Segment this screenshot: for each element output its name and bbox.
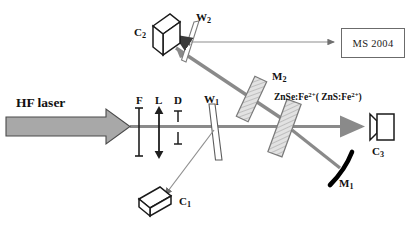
w1-to-c1-ray [165, 130, 214, 195]
filter-f [135, 108, 143, 156]
spectrometer-ms2004[interactable]: MS 2004 [341, 28, 405, 58]
detector-c3-label-sub: 3 [380, 150, 384, 159]
crystal-to-m1-beam [292, 130, 340, 168]
detector-c3-label-base: C [372, 145, 380, 157]
spectrometer-label: MS 2004 [353, 38, 394, 49]
hf-laser-block-arrow-shape [6, 109, 130, 144]
wedge-w2-label-base: W [196, 11, 207, 23]
mirror-m2-label-sub: 2 [282, 75, 286, 84]
wedge-w1-label: W1 [204, 94, 219, 107]
diagonal-beam-line [176, 48, 290, 124]
crystal-znse-label: ZnSe:Fe2+( ZnS:Fe2+) [274, 92, 362, 102]
detector-c1 [139, 187, 171, 216]
crystal-main-charge: 2+ [308, 91, 315, 98]
mirror-m1-label-base: M [339, 177, 349, 189]
detector-c2-label: C2 [134, 27, 146, 40]
lens-l [155, 106, 164, 159]
mirror-m2-label: M2 [272, 71, 286, 84]
wedge-w1-label-sub: 1 [215, 98, 219, 107]
mirror-m2-shape [236, 76, 266, 121]
crystal-main-text: ZnSe:Fe [274, 92, 308, 102]
detector-c1-label: C1 [179, 196, 191, 209]
detector-c2-label-base: C [134, 26, 142, 38]
diaphragm-d-label: D [174, 95, 182, 106]
mirror-m2 [236, 76, 266, 121]
wedge-w2-label: W2 [196, 12, 211, 25]
detector-c1-label-base: C [179, 195, 187, 207]
hf-laser-label: HF laser [16, 96, 65, 110]
wedge-w1 [209, 104, 222, 160]
hf-laser-arrow [6, 109, 130, 144]
wedge-w1-label-base: W [204, 93, 215, 105]
detector-c2-label-sub: 2 [142, 31, 146, 40]
detector-c3 [370, 114, 394, 140]
crystal-alt-charge: 2+ [351, 91, 358, 98]
crystal-alt-close: ) [359, 92, 362, 102]
optical-setup-diagram: HF laser F L D W1 W2 C2 C1 M2 M1 C3 ZnSe… [0, 0, 409, 233]
mirror-m2-label-base: M [272, 70, 282, 82]
lens-l-label: L [155, 95, 162, 106]
detector-c3-label: C3 [372, 146, 384, 159]
wedge-w2-label-sub: 2 [207, 16, 211, 25]
mirror-m1-label: M1 [339, 178, 353, 191]
w1-reflection-line [165, 130, 214, 195]
detector-c1-label-sub: 1 [187, 200, 191, 209]
diagonal-beam-path [176, 48, 290, 124]
filter-f-label: F [136, 95, 143, 106]
mirror-m1-label-sub: 1 [349, 182, 353, 191]
m1-beam-line [292, 130, 340, 168]
crystal-alt-open: ( ZnS:Fe [316, 92, 352, 102]
wedge-w1-shape [209, 104, 222, 160]
